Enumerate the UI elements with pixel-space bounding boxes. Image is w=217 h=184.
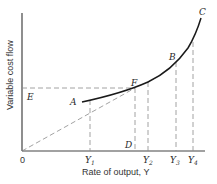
label-c: C (199, 7, 206, 17)
ray-from-origin (22, 88, 135, 151)
label-b: B (168, 52, 176, 62)
y-axis-title: Variable cost flow (5, 40, 15, 110)
label-f: F (130, 78, 138, 88)
tick-y3: Y3 (170, 155, 180, 166)
label-d: D (124, 140, 132, 150)
tick-y4: Y4 (188, 155, 198, 166)
origin-label: 0 (20, 155, 25, 165)
variable-cost-curve (82, 18, 201, 102)
tick-y2: Y2 (143, 155, 153, 166)
x-axis-title: Rate of output, Y (82, 167, 149, 177)
label-e: E (26, 92, 34, 102)
label-a: A (69, 97, 77, 107)
tick-y1: Y1 (85, 155, 95, 166)
variable-cost-diagram: A B C D E F 0 Y1 Y2 Y3 Y4 Rate of output… (0, 0, 217, 184)
